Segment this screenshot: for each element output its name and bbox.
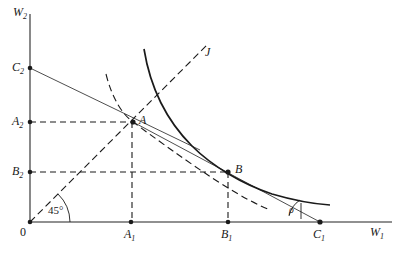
axis-label-B1: B1	[221, 228, 232, 243]
point-marker-A1	[129, 220, 134, 225]
origin-label: 0	[20, 226, 26, 238]
economics-diagram-figure: W2 W1 0 C2 A2 B2 A1 B1 C1 A B J 45° ρ	[0, 0, 400, 258]
point-label-B: B	[235, 163, 242, 175]
point-marker-origin	[28, 220, 33, 225]
axis-label-B2: B2	[12, 165, 23, 180]
axis-label-A1: A1	[124, 228, 135, 243]
angle-label-45: 45°	[48, 205, 63, 216]
diagram-canvas	[0, 0, 400, 258]
axis-label-C2: C2	[12, 61, 24, 76]
point-marker-B2	[28, 170, 33, 175]
x-axis-label: W1	[370, 226, 384, 241]
point-marker-B1	[226, 220, 231, 225]
ray-label-J: J	[205, 46, 210, 58]
budget-line-C2-to-A	[30, 68, 200, 150]
point-marker-C1	[317, 219, 322, 224]
point-marker-C2	[28, 66, 33, 71]
solid-indifference-curve-through-B	[144, 49, 330, 205]
point-marker-B	[225, 169, 230, 174]
angle-label-rho: ρ	[289, 205, 294, 215]
point-marker-A2	[28, 120, 33, 125]
axis-label-C1: C1	[313, 228, 325, 243]
y-axis-label: W2	[13, 6, 27, 21]
point-label-A: A	[139, 114, 146, 126]
point-marker-A	[130, 119, 135, 124]
axis-label-A2: A2	[12, 115, 23, 130]
